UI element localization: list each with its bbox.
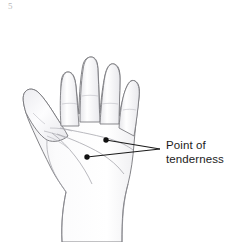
hand-illustration: [0, 0, 227, 242]
callout-label-line-2: tenderness: [166, 152, 224, 166]
index-finger-outline: [60, 72, 79, 126]
callout-label: Point of tenderness: [166, 138, 224, 166]
hand-body: [23, 57, 139, 242]
tenderness-marker-upper: [103, 137, 108, 142]
tenderness-marker-lower: [84, 154, 89, 159]
ring-finger-outline: [100, 64, 120, 124]
little-finger-outline: [119, 80, 139, 136]
callout-label-line-1: Point of: [166, 138, 224, 152]
figure-container: 5: [0, 0, 227, 242]
